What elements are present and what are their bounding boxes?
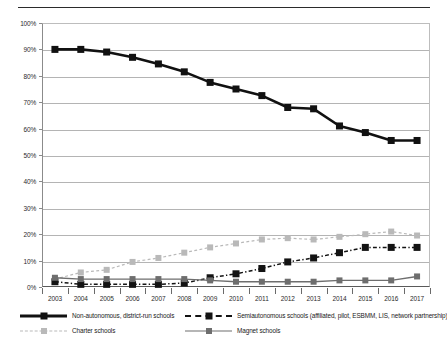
x-axis-tick-label: 2016 [384, 295, 398, 302]
y-axis-tick-label: 30% [0, 204, 36, 211]
y-axis-tick-mark [39, 49, 42, 50]
y-axis-tick-label: 70% [0, 99, 36, 106]
x-axis-tick-mark [404, 288, 405, 294]
x-axis-tick-label: 2017 [410, 295, 424, 302]
x-axis-tick-label: 2010 [229, 295, 243, 302]
gridline [43, 262, 429, 263]
y-axis-tick-label: 20% [0, 231, 36, 238]
chart-legend: Non-autonomous, district-run schoolsChar… [0, 311, 439, 347]
y-axis-tick-mark [39, 102, 42, 103]
x-axis-tick-mark [275, 288, 276, 294]
y-axis-tick-mark [39, 129, 42, 130]
y-axis-tick-label: 0% [0, 284, 36, 291]
x-axis-tick-label: 2008 [177, 295, 191, 302]
x-axis-tick-label: 2009 [203, 295, 217, 302]
legend-item-label: Magnet schools [237, 328, 280, 334]
x-axis-tick-mark [249, 288, 250, 294]
gridline [43, 156, 429, 157]
x-axis-tick-mark [301, 288, 302, 294]
legend-swatch-icon [20, 326, 67, 336]
plot-area [42, 23, 430, 287]
gridline [43, 77, 429, 78]
x-axis-tick-mark [68, 288, 69, 294]
y-axis-tick-mark [39, 208, 42, 209]
legend-item[interactable]: Non-autonomous, district-run schools [20, 311, 174, 321]
x-axis-tick-label: 2003 [48, 295, 62, 302]
y-axis-tick-mark [39, 76, 42, 77]
gridline [43, 235, 429, 236]
y-axis-tick-mark [39, 23, 42, 24]
x-axis-tick-mark [171, 288, 172, 294]
y-axis-tick-mark [39, 261, 42, 262]
gridline [43, 50, 429, 51]
legend-item-label: Non-autonomous, district-run schools [72, 313, 174, 319]
gridline [43, 209, 429, 210]
legend-marker-icon [205, 313, 212, 320]
legend-item[interactable]: Charter schools [20, 326, 115, 336]
x-axis-tick-label: 2012 [281, 295, 295, 302]
y-axis-tick-label: 60% [0, 125, 36, 132]
y-axis-tick-label: 100% [0, 20, 36, 27]
gridline [43, 130, 429, 131]
x-axis: 2003200420052006200720082009201020112012… [42, 288, 430, 310]
top-divider-rule [18, 7, 430, 8]
x-axis-tick-label: 2004 [74, 295, 88, 302]
x-axis-tick-mark [94, 288, 95, 294]
x-axis-tick-mark [430, 288, 431, 294]
x-axis-tick-label: 2011 [255, 295, 269, 302]
y-axis-tick-label: 10% [0, 257, 36, 264]
x-axis-tick-mark [42, 288, 43, 294]
y-axis-tick-mark [39, 181, 42, 182]
legend-swatch-icon [185, 311, 232, 321]
x-axis-tick-mark [223, 288, 224, 294]
legend-item[interactable]: Magnet schools [185, 326, 280, 336]
gridline [43, 103, 429, 104]
legend-item[interactable]: Semiautonomous schools (affiliated, pilo… [185, 311, 447, 321]
x-axis-tick-label: 2005 [100, 295, 114, 302]
y-axis-tick-mark [39, 234, 42, 235]
legend-item-label: Charter schools [72, 328, 115, 334]
x-axis-tick-label: 2015 [358, 295, 372, 302]
x-axis-tick-mark [197, 288, 198, 294]
legend-item-label: Semiautonomous schools (affiliated, pilo… [237, 313, 447, 319]
x-axis-tick-label: 2006 [126, 295, 140, 302]
x-axis-tick-mark [378, 288, 379, 294]
x-axis-tick-mark [120, 288, 121, 294]
legend-marker-icon [206, 328, 212, 334]
y-axis-tick-label: 50% [0, 152, 36, 159]
legend-swatch-icon [185, 326, 232, 336]
x-axis-tick-label: 2013 [307, 295, 321, 302]
x-axis-tick-label: 2007 [151, 295, 165, 302]
y-axis-tick-mark [39, 155, 42, 156]
legend-marker-icon [41, 328, 47, 334]
y-axis-tick-label: 80% [0, 72, 36, 79]
y-axis-tick-label: 40% [0, 178, 36, 185]
legend-marker-icon [40, 313, 47, 320]
y-axis-tick-label: 90% [0, 46, 36, 53]
gridline [43, 182, 429, 183]
legend-swatch-icon [20, 311, 67, 321]
x-axis-tick-mark [327, 288, 328, 294]
y-axis-tick-mark [39, 287, 42, 288]
x-axis-tick-mark [352, 288, 353, 294]
x-axis-tick-mark [145, 288, 146, 294]
x-axis-tick-label: 2014 [332, 295, 346, 302]
